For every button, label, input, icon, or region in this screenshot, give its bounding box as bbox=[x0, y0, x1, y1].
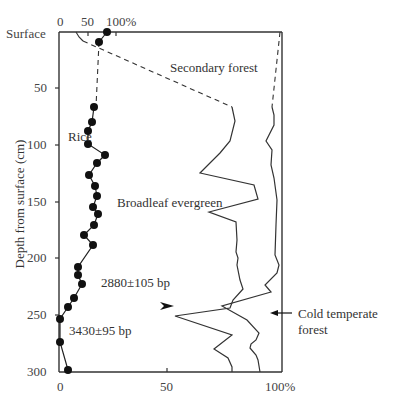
y-tick-100: 100 bbox=[27, 137, 47, 153]
top-tick-100: 100% bbox=[106, 14, 136, 30]
bottom-tick-100: 100% bbox=[265, 379, 295, 395]
date-arrow-icon bbox=[160, 302, 174, 310]
annotation-date-3430: 3430±95 bp bbox=[69, 323, 131, 339]
y-axis-label: Depth from surface (cm) bbox=[12, 124, 28, 284]
cold-temperate-line bbox=[222, 107, 279, 372]
top-tick-50: 50 bbox=[81, 14, 94, 30]
y-tick-200: 200 bbox=[27, 250, 47, 266]
y-tick-surface: Surface bbox=[6, 26, 46, 42]
annotation-secondary-forest: Secondary forest bbox=[170, 60, 258, 76]
bottom-tick-50: 50 bbox=[160, 379, 173, 395]
y-tick-250: 250 bbox=[27, 307, 47, 323]
cold-temperate-arrow-icon bbox=[270, 310, 292, 316]
bottom-tick-0: 0 bbox=[57, 379, 64, 395]
y-tick-300: 300 bbox=[27, 364, 47, 380]
annotation-rice: Rice bbox=[68, 129, 92, 145]
broadleaf-evergreen-line bbox=[175, 107, 258, 372]
surface-curve bbox=[76, 32, 83, 41]
y-tick-50: 50 bbox=[34, 80, 47, 96]
annotation-date-2880: 2880±105 bp bbox=[101, 275, 170, 291]
annotation-cold-temperate-2: forest bbox=[298, 322, 328, 338]
top-tick-0: 0 bbox=[57, 14, 64, 30]
annotation-cold-temperate-1: Cold temperate bbox=[298, 306, 378, 322]
annotation-broadleaf-evergreen: Broadleaf evergreen bbox=[117, 195, 223, 211]
y-tick-150: 150 bbox=[27, 194, 47, 210]
